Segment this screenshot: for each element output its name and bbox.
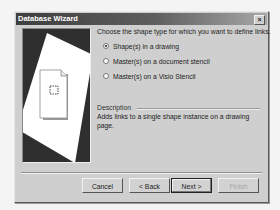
cancel-button[interactable]: Cancel <box>82 178 123 193</box>
radio-unselected-icon[interactable] <box>103 58 109 64</box>
option-masters-document-stencil[interactable]: Master(s) on a document stencil <box>103 56 210 66</box>
description-label: Description <box>97 104 131 111</box>
wizard-illustration <box>22 28 91 163</box>
option-label: Master(s) on a document stencil <box>113 58 210 65</box>
database-wizard-dialog: Database Wizard × Choose the shape type … <box>14 11 269 203</box>
close-button[interactable]: × <box>254 15 265 25</box>
close-icon: × <box>257 16 261 23</box>
description-divider <box>137 108 260 110</box>
finish-button: Finish <box>218 178 259 193</box>
next-button[interactable]: Next > <box>171 178 212 193</box>
document-with-selected-shape-icon <box>23 29 90 162</box>
button-separator <box>21 172 262 174</box>
title-bar[interactable]: Database Wizard × <box>16 13 267 25</box>
option-label: Shape(s) in a drawing <box>113 43 179 50</box>
window-title: Database Wizard <box>18 14 78 23</box>
option-label: Master(s) on a Visio Stencil <box>113 73 196 80</box>
back-button[interactable]: < Back <box>129 178 170 193</box>
radio-unselected-icon[interactable] <box>103 73 109 79</box>
radio-selected-icon[interactable] <box>103 43 109 49</box>
option-masters-visio-stencil[interactable]: Master(s) on a Visio Stencil <box>103 71 196 81</box>
option-shapes-in-drawing[interactable]: Shape(s) in a drawing <box>103 41 179 51</box>
prompt-text: Choose the shape type for which you want… <box>97 28 270 35</box>
description-text: Adds links to a single shape instance on… <box>97 112 259 130</box>
